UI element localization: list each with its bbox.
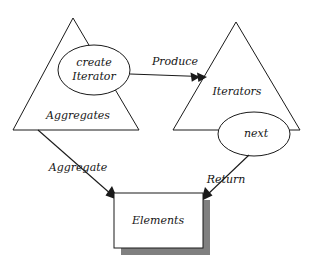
create-iterator-label-line1: create <box>76 56 112 69</box>
elements-label: Elements <box>131 214 185 227</box>
aggregates-label: Aggregates <box>45 109 110 122</box>
return-edge-label: Return <box>206 173 246 186</box>
iterators-label: Iterators <box>211 85 261 98</box>
produce-edge-label: Produce <box>151 55 199 68</box>
diagram-canvas: Aggregates create Iterator Iterators nex… <box>0 0 310 265</box>
aggregate-edge-label: Aggregate <box>48 161 108 174</box>
iterator-pattern-diagram: Aggregates create Iterator Iterators nex… <box>0 0 310 265</box>
next-label: next <box>244 127 269 140</box>
produce-connector-line <box>130 74 200 77</box>
create-iterator-label-line2: Iterator <box>71 70 116 83</box>
